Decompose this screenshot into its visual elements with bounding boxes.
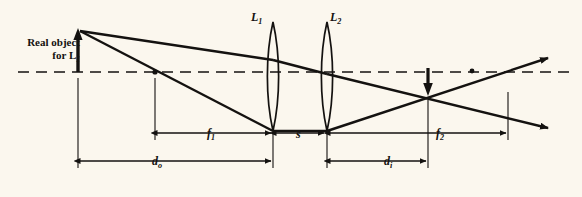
focal-length-2-label: f2	[436, 126, 444, 142]
lens-2	[321, 22, 332, 131]
lens-2-label: L2	[330, 10, 341, 26]
lens-1	[267, 22, 278, 131]
lens-separation-label: s	[296, 127, 301, 142]
axis-crossing-marker	[470, 69, 475, 74]
ray-lower	[80, 31, 548, 131]
focal-length-1-label: f1	[207, 126, 215, 142]
object-label-line1: Real object	[27, 36, 80, 48]
lens-1-label: L1	[251, 10, 262, 26]
object-label: Real object for L1	[6, 36, 80, 66]
ray-upper	[80, 31, 548, 128]
focal-point-marker	[152, 69, 157, 74]
image-distance-label: di	[384, 154, 392, 170]
ray-diagram-figure: Real object for L1 L1 L2 f1 s f2 do di	[0, 0, 582, 197]
object-label-line2: for L1	[6, 49, 80, 66]
object-distance-label: do	[152, 154, 162, 170]
diagram-canvas	[0, 0, 582, 197]
